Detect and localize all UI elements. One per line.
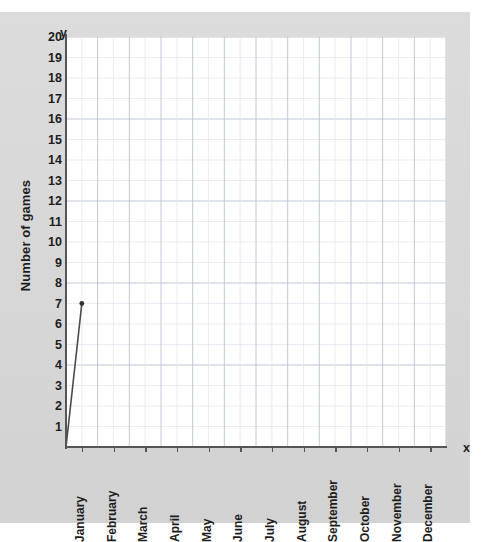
x-axis-tick-label: December [421, 484, 435, 542]
y-axis-tick-label: 18 [36, 72, 62, 85]
x-axis-letter: x [463, 441, 470, 455]
plot-area [66, 37, 446, 447]
x-axis-tick-label: June [231, 514, 245, 542]
x-axis-tick-label: May [200, 519, 214, 542]
y-axis-tick-label: 11 [36, 216, 62, 229]
y-axis-tick-label: 5 [36, 339, 62, 352]
y-axis-tick-label: 20 [36, 31, 62, 44]
y-axis-tick-label: 7 [36, 298, 62, 311]
data-point-marker [79, 301, 84, 306]
y-axis-tick-label: 15 [36, 134, 62, 147]
y-axis-tick-label: 3 [36, 380, 62, 393]
y-axis-tick-label: 4 [36, 359, 62, 372]
data-series-layer [66, 37, 446, 447]
y-axis-tick-label: 19 [36, 52, 62, 65]
y-axis-tick-label: 8 [36, 277, 62, 290]
y-axis-tick-labels: 2019181716151413121110987654321 [26, 0, 62, 511]
y-axis-line [65, 34, 67, 449]
y-axis-tick-label: 14 [36, 154, 62, 167]
x-axis-tick-labels: JanuaryFebruaryMarchAprilMayJuneJulyAugu… [66, 452, 446, 542]
series-line [66, 304, 82, 448]
y-axis-tick-label: 1 [36, 421, 62, 434]
y-axis-tick-label: 6 [36, 318, 62, 331]
x-axis-tick-label: August [295, 501, 309, 542]
x-axis-tick-label: September [326, 480, 340, 542]
y-axis-tick-label: 16 [36, 113, 62, 126]
y-axis-tick-label: 13 [36, 175, 62, 188]
x-axis-tick-label: January [73, 496, 87, 542]
y-axis-tick-label: 17 [36, 93, 62, 106]
y-axis-tick-label: 2 [36, 400, 62, 413]
x-axis-tick-label: February [105, 491, 119, 542]
x-axis-tick-label: November [390, 483, 404, 542]
x-axis-line [65, 446, 447, 448]
y-axis-tick-label: 12 [36, 195, 62, 208]
x-axis-tick-label: April [168, 515, 182, 542]
y-axis-tick-label: 9 [36, 257, 62, 270]
x-axis-tick-label: March [136, 507, 150, 542]
x-axis-tick-label: July [263, 518, 277, 542]
y-axis-tick-label: 10 [36, 236, 62, 249]
x-axis-tick-label: October [358, 496, 372, 542]
